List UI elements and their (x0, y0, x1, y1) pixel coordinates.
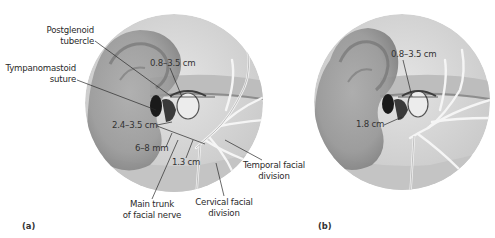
label-cervical-facial-division: Cervical facial division (190, 197, 258, 218)
panel-b-circle (310, 14, 495, 200)
label-line: Temporal facial (240, 160, 308, 171)
label-line: division (240, 171, 308, 182)
measurement-a-0-8-3-5: 0.8–3.5 cm (150, 58, 195, 68)
label-line: division (190, 208, 258, 219)
label-main-trunk-facial-nerve: Main trunk of facial nerve (116, 199, 188, 220)
label-tympanomastoid-suture: Tympanomastoid suture (2, 63, 76, 84)
label-temporal-facial-division: Temporal facial division (240, 160, 308, 181)
label-line: tubercle (30, 36, 94, 47)
measurement-a-1-3: 1.3 cm (172, 157, 200, 167)
measurement-b-0-8-3-5: 0.8–3.5 cm (391, 49, 436, 59)
label-postglenoid-tubercle: Postglenoid tubercle (30, 25, 94, 46)
panel-label-b: (b) (318, 221, 332, 231)
label-line: Main trunk (116, 199, 188, 210)
label-line: of facial nerve (116, 210, 188, 221)
measurement-a-2-4-3-5: 2.4–3.5 cm (112, 120, 157, 130)
panel-label-a: (a) (22, 221, 35, 231)
label-line: Cervical facial (190, 197, 258, 208)
measurement-a-6-8mm: 6–8 mm (135, 143, 169, 153)
label-line: suture (2, 74, 76, 85)
label-line: Tympanomastoid (2, 63, 76, 74)
measurement-b-1-8: 1.8 cm (356, 119, 384, 129)
label-line: Postglenoid (30, 25, 94, 36)
